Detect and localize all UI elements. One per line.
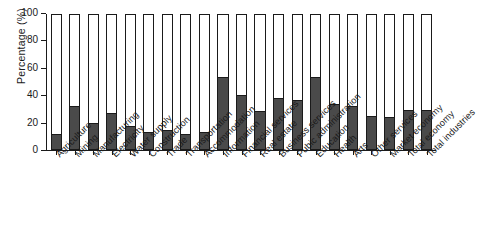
y-tick-label: 0 — [32, 144, 38, 155]
y-tick-label: 80 — [27, 34, 38, 45]
bar-0[interactable] — [51, 14, 62, 150]
x-axis-category-labels: AgricultureMiningManufacturingElectricit… — [46, 152, 443, 250]
y-tick-label: 100 — [21, 7, 38, 18]
y-tick-40: 40 — [41, 95, 46, 96]
y-tick-label: 40 — [27, 89, 38, 100]
bar-17[interactable] — [366, 14, 377, 150]
y-tick-20: 20 — [41, 123, 46, 124]
bar-outline — [51, 14, 62, 150]
y-tick-label: 20 — [27, 117, 38, 128]
y-tick-80: 80 — [41, 40, 46, 41]
y-tick-label: 60 — [27, 62, 38, 73]
y-tick-100: 100 — [41, 13, 46, 14]
y-tick-60: 60 — [41, 68, 46, 69]
y-tick-0: 0 — [41, 150, 46, 151]
